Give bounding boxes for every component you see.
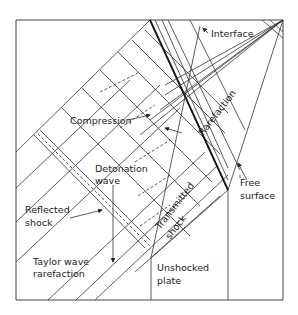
label-free-surface-line2: surface — [240, 190, 275, 201]
detonation-envelope — [16, 20, 150, 152]
label-reflected-shock-line1: Reflected — [25, 204, 70, 215]
label-unshocked-plate-line2: plate — [157, 275, 181, 286]
label-compression: Compression — [70, 115, 132, 126]
label-detonation-wave-line1: Detonation — [95, 163, 148, 174]
label-taylor-wave-line2: rarefaction — [33, 268, 85, 279]
label-taylor-wave-line1: Taylor wave — [32, 256, 89, 267]
label-unshocked-plate-line1: Unshocked — [157, 262, 209, 273]
label-interface: Interface — [211, 28, 254, 39]
label-rarefaction: Rarefaction — [196, 88, 238, 138]
label-reflected-shock-line2: shock — [25, 217, 53, 228]
wave-interaction-diagram: Interface Compression Rarefaction Detona… — [0, 0, 298, 315]
label-detonation-wave-line2: wave — [95, 175, 120, 186]
label-free-surface-line1: Free — [240, 177, 260, 188]
